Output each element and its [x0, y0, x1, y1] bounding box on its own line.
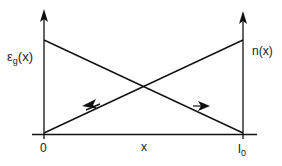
epsilon-symbol: ε [7, 49, 13, 64]
end-label: l0 [238, 142, 246, 155]
left-axis-label: εg(x) [7, 50, 33, 63]
origin-label: 0 [40, 142, 47, 154]
right-axis-label: n(x) [252, 45, 273, 57]
right-arrow-icon [193, 101, 210, 111]
epsilon-subscript: g [13, 56, 18, 66]
end-label-subscript: 0 [241, 148, 246, 158]
x-axis-label: x [141, 141, 147, 153]
diagram-canvas: εg(x) n(x) 0 x l0 [0, 0, 282, 166]
epsilon-argument: (x) [18, 49, 33, 64]
